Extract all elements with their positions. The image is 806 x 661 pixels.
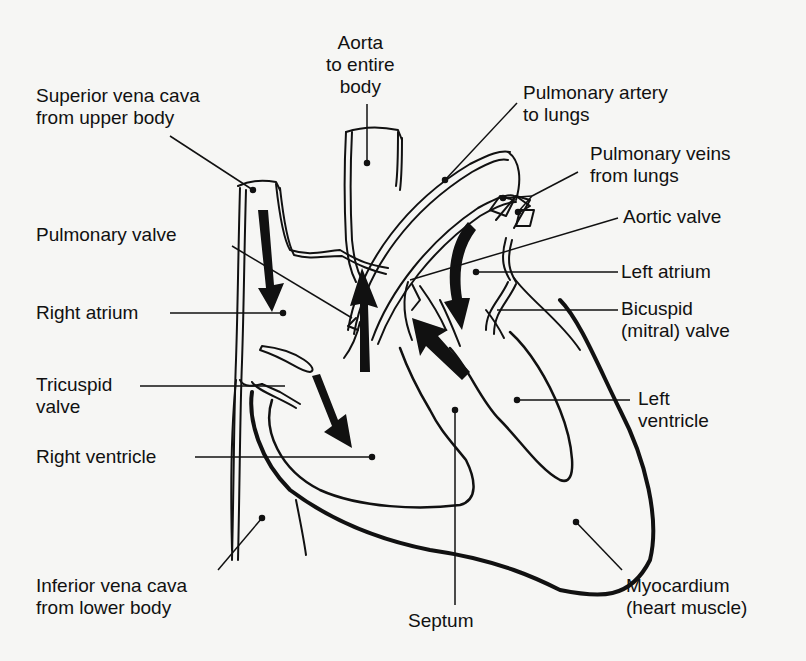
label-right-ventricle: Right ventricle	[36, 446, 156, 468]
myocardium-outer-wall	[251, 300, 653, 595]
label-right-atrium: Right atrium	[36, 302, 138, 324]
label-inferior-vena-cava: Inferior vena cava from lower body	[36, 575, 187, 619]
label-aorta: Aorta to entire body	[326, 32, 395, 98]
septum-wall	[269, 348, 473, 507]
label-pulmonary-veins: Pulmonary veins from lungs	[590, 143, 730, 187]
label-pulmonary-valve: Pulmonary valve	[36, 224, 176, 246]
scanned-page: Aorta to entire body Superior vena cava …	[0, 0, 806, 661]
label-pulmonary-artery: Pulmonary artery to lungs	[523, 82, 668, 126]
label-bicuspid-valve: Bicuspid (mitral) valve	[621, 298, 730, 342]
arrow-pv-curve	[444, 222, 476, 330]
arrow-ra-down	[312, 374, 352, 448]
arrow-svc-down	[258, 210, 284, 312]
leader-lines	[140, 103, 630, 605]
label-left-atrium: Left atrium	[621, 261, 711, 283]
label-tricuspid-valve: Tricuspid valve	[36, 374, 112, 418]
label-septum: Septum	[408, 610, 473, 632]
label-myocardium: Myocardium (heart muscle)	[626, 575, 747, 619]
pulmonary-veins	[490, 196, 534, 282]
label-superior-vena-cava: Superior vena cava from upper body	[36, 85, 200, 129]
left-ventricle-wall	[450, 332, 572, 481]
left-atrium-walls	[486, 278, 580, 350]
label-left-ventricle: Left ventricle	[638, 388, 709, 432]
label-aortic-valve: Aortic valve	[623, 206, 721, 228]
pulmonary-valve-flap	[344, 318, 360, 358]
aorta	[345, 127, 403, 282]
